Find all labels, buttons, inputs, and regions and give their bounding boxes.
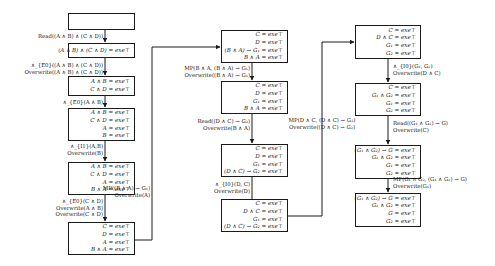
edge-label-line: Overwrite(C) (393, 127, 448, 134)
state-line: C ∧ D = exe⊤ (90, 117, 130, 125)
edge-label-c1-2: ∧_{E0}(A ∧ B) (63, 99, 103, 106)
edge-label-c1-0: Read((A ∧ B) ∧ (C ∧ D)) (38, 33, 103, 40)
edge-label-line: Read((D ∧ C) → G₂) (197, 118, 250, 125)
state-line: G₂ = exe⊤ (386, 218, 416, 226)
edge-label-line: ∧_{E0}(A ∧ B) (63, 99, 103, 106)
edge-label-line: Overwrite(D ∧ C) (393, 70, 441, 77)
edge-label-line: ∧_{I0}(G₁, G₂) (393, 63, 441, 70)
state-line: D ∧ C = exe⊤ (376, 34, 416, 42)
edge-label-line: Overwrite(G₁) (393, 183, 467, 190)
state-line: C = exe⊤ (102, 223, 130, 231)
edge-label-line: Read((G₁ ∧ G₂) → G) (393, 120, 448, 127)
state-line: A ∧ B = exe⊤ (91, 78, 130, 86)
state-line: G₁ = exe⊤ (253, 161, 283, 169)
state-line: D = exe⊤ (255, 90, 283, 98)
edge-label-line: Overwrite((D ∧ C) → G₂) (285, 124, 359, 131)
state-line: G₁ ∧ G₂ = exe⊤ (372, 154, 416, 162)
state-line: G₁ = exe⊤ (253, 216, 283, 224)
state-line: (D ∧ C) → G₂ = exe⊤ (224, 223, 283, 231)
edge-label-line: Overwrite(D) (214, 188, 250, 195)
state-box-c1-0 (68, 13, 135, 30)
state-line: C = exe⊤ (255, 82, 283, 90)
state-line: C = exe⊤ (255, 145, 283, 153)
state-box-c3-1: C = exe⊤ G₁ ∧ G₂ = exe⊤ G₁ = exe⊤ G₂ = e… (355, 83, 421, 116)
edge-label-c2-0: MP(B ∧ A, (B ∧ A) → G₁) Overwrite((B ∧ A… (184, 65, 250, 78)
edge-label-line: MP((B ∧ A) → G₁) (103, 185, 150, 192)
state-box-c1-2: A ∧ B = exe⊤ C ∧ D = exe⊤ (68, 76, 135, 96)
state-line: (A ∧ B) ∧ (C ∧ D) = 𝑒𝑥𝑒⊤ (58, 47, 130, 55)
state-line: G₁ ∧ G₂ = exe⊤ (372, 92, 416, 100)
edge-label-c3-1: Read((G₁ ∧ G₂) → G) Overwrite(C) (393, 120, 448, 133)
state-box-c2-0: C = exe⊤ D = exe⊤ (B ∧ A) → G₁ = exe⊤ B … (221, 30, 288, 63)
state-line: (G₁ ∧ G₂) → G = exe⊤ (355, 147, 416, 155)
state-line: C = exe⊤ (388, 27, 416, 35)
state-line: A ∧ B = exe⊤ (91, 163, 130, 171)
edge-label-line: Overwrite(B) (67, 150, 103, 157)
edge-label-c3-2: MP(G₁ ∧ G₂, (G₁ ∧ G₂) → G) Overwrite(G₁) (393, 176, 467, 189)
cross-edge-label-2: MP(D ∧ C, (D ∧ C) → G₂) Overwrite((D ∧ C… (285, 117, 359, 130)
state-box-c1-1: (A ∧ B) ∧ (C ∧ D) = 𝑒𝑥𝑒⊤ (68, 43, 135, 58)
edge-label-c3-0: ∧_{I0}(G₁, G₂) Overwrite(D ∧ C) (393, 63, 441, 76)
state-line: G₁ ∧ G₂ = exe⊤ (372, 202, 416, 210)
state-line: G₁ = exe⊤ (386, 42, 416, 50)
state-line: (G₁ ∧ G₂) → G = exe⊤ (355, 195, 416, 203)
state-line: C = exe⊤ (255, 200, 283, 208)
state-line: A = exe⊤ (103, 239, 130, 247)
state-box-c2-3: C = exe⊤ D ∧ C = exe⊤ G₁ = exe⊤ (D ∧ C) … (221, 199, 288, 232)
state-line: C = exe⊤ (255, 31, 283, 39)
edge-label-line: Overwrite(A) (103, 192, 150, 199)
edge-label-c2-1: Read((D ∧ C) → G₂) Overwrite(B ∧ A) (197, 118, 250, 131)
state-line: B = exe⊤ (103, 132, 130, 140)
state-box-c1-3: A ∧ B = exe⊤ C ∧ D = exe⊤ A = exe⊤ B = e… (68, 108, 135, 141)
edge-label-line: Overwrite(A ∧ B) (55, 205, 103, 212)
cross-edge-label-1: MP((B ∧ A) → G₁) Overwrite(A) (103, 185, 150, 198)
state-box-c3-0: C = exe⊤ D ∧ C = exe⊤ G₁ = exe⊤ G₂ = exe… (355, 25, 421, 59)
state-box-c2-2: C = exe⊤ D = exe⊤ G₁ = exe⊤ (D ∧ C) → G₂… (221, 144, 288, 177)
edge-label-line: Overwrite((A ∧ B) ∧ (C ∧ D)) (24, 69, 103, 76)
edge-label-line: Overwrite((B ∧ A) → G₁) (184, 72, 250, 79)
state-line: (B ∧ A) → G₁ = exe⊤ (225, 47, 283, 55)
edge-label-line: ∧_{I1}(A,B) (67, 143, 103, 150)
state-line: D ∧ C = exe⊤ (243, 208, 283, 216)
state-line: A = exe⊤ (103, 125, 130, 133)
edge-label-line: Overwrite(B ∧ A) (197, 125, 250, 132)
state-line: D = exe⊤ (255, 153, 283, 161)
state-line: C ∧ D = exe⊤ (90, 86, 130, 94)
edge-label-line: ∧_{E0}((A ∧ B) ∧ (C ∧ D)) (24, 62, 103, 69)
state-line: G₁ = exe⊤ (253, 98, 283, 106)
edge-label-c1-3: ∧_{I1}(A,B) Overwrite(B) (67, 143, 103, 156)
edge-label-c1-4: ∧_{E0}(C ∧ D) Overwrite(A ∧ B) Overwrite… (55, 198, 103, 218)
state-line: G₁ = exe⊤ (386, 162, 416, 170)
state-line: C = exe⊤ (388, 84, 416, 92)
edge-label-c1-1: ∧_{E0}((A ∧ B) ∧ (C ∧ D)) Overwrite((A ∧… (24, 62, 103, 75)
edge-label-line: ∧_{I0}(D, C) (214, 181, 250, 188)
state-line: B ∧ A = exe⊤ (244, 54, 283, 62)
state-line: G = exe⊤ (388, 210, 416, 218)
state-line: D = exe⊤ (255, 39, 283, 47)
edge-label-line: Read((A ∧ B) ∧ (C ∧ D)) (38, 33, 103, 40)
state-box-c3-3: (G₁ ∧ G₂) → G = exe⊤ G₁ ∧ G₂ = exe⊤ G = … (355, 193, 421, 227)
state-line: D = exe⊤ (102, 231, 130, 239)
edge-label-line: ∧_{E0}(C ∧ D) (55, 198, 103, 205)
state-box-c3-2: (G₁ ∧ G₂) → G = exe⊤ G₁ ∧ G₂ = exe⊤ G₁ =… (355, 145, 421, 179)
edge-label-c2-2: ∧_{I0}(D, C) Overwrite(D) (214, 181, 250, 194)
state-line: (D ∧ C) → G₂ = exe⊤ (224, 168, 283, 176)
state-box-c2-1: C = exe⊤ D = exe⊤ G₁ = exe⊤ B ∧ A = exe⊤ (221, 81, 288, 114)
edge-label-line: MP(B ∧ A, (B ∧ A) → G₁) (184, 65, 250, 72)
state-box-c1-5: C = exe⊤ D = exe⊤ A = exe⊤ B ∧ A = exe⊤ (68, 222, 135, 255)
state-line: B ∧ A = exe⊤ (91, 246, 130, 254)
state-line: G₂ = exe⊤ (386, 50, 416, 58)
state-line: B ∧ A = exe⊤ (244, 105, 283, 113)
state-line: G₂ = exe⊤ (386, 107, 416, 115)
state-line: G₁ = exe⊤ (386, 100, 416, 108)
edge-label-line: Overwrite(C ∧ D) (55, 211, 103, 218)
edge-label-line: MP(G₁ ∧ G₂, (G₁ ∧ G₂) → G) (393, 176, 467, 183)
state-line: C ∧ D = exe⊤ (90, 171, 130, 179)
state-line: A ∧ B = exe⊤ (91, 109, 130, 117)
edge-label-line: MP(D ∧ C, (D ∧ C) → G₂) (285, 117, 359, 124)
